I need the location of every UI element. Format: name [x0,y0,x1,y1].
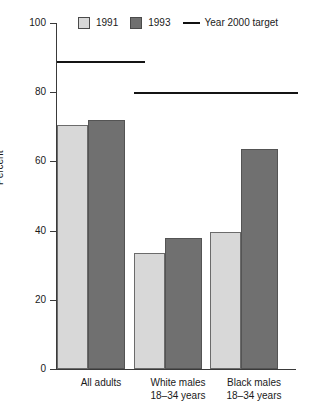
target-line-2 [134,92,222,94]
x-axis-line [56,369,296,370]
x-axis-label-line: Black males [194,376,311,389]
plot-area [56,23,296,369]
bar-1993-3 [241,149,278,369]
y-axis-tick-label: 0 [4,364,46,374]
bar-1993-2 [165,238,202,369]
bar-1991-3 [210,232,241,369]
target-line-3 [210,92,298,94]
y-axis-tick-label: 80 [4,87,46,97]
y-axis-tick-label: 100 [4,18,46,28]
bar-1991-1 [57,125,88,369]
y-axis-tick [50,369,56,370]
x-axis-label-3: Black males18–34 years [194,376,311,402]
target-line-1 [57,61,145,63]
bar-1993-1 [88,120,125,369]
bar-1991-2 [134,253,165,369]
y-axis-tick-label: 20 [4,295,46,305]
y-axis-tick-label: 60 [4,156,46,166]
x-axis-label-line: 18–34 years [194,389,311,402]
bar-chart: 1991 1993 Year 2000 target Percent 02040… [0,0,311,418]
y-axis-tick-label: 40 [4,226,46,236]
